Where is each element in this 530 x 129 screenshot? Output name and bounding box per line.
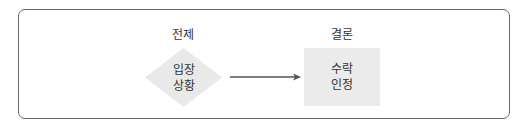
conclusion-node-text: 수락 인정	[304, 61, 380, 93]
premise-node: 입장 상황	[145, 48, 222, 107]
conclusion-line-1: 수락	[304, 61, 380, 77]
diagram-frame	[18, 9, 510, 119]
conclusion-caption: 결론	[322, 28, 362, 42]
premise-line-1: 입장	[145, 62, 222, 78]
conclusion-node: 수락 인정	[304, 48, 380, 106]
premise-node-text: 입장 상황	[145, 62, 222, 94]
premise-line-2: 상황	[145, 78, 222, 94]
arrow-icon	[229, 71, 303, 83]
premise-caption: 전제	[163, 28, 203, 42]
conclusion-line-2: 인정	[304, 77, 380, 93]
